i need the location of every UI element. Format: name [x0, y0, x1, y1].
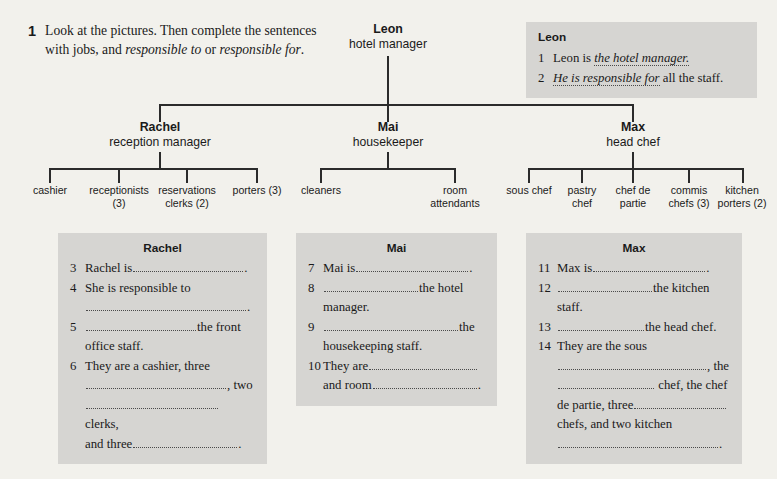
exercise-item-12-body: the kitchen staff.: [557, 279, 730, 318]
exercise-item-13-post: the head chef.: [645, 320, 716, 334]
exercise-item-14-post: .: [719, 437, 722, 451]
exercise-item-12: 12 the kitchen staff.: [538, 279, 730, 318]
exercise-item-9-blank[interactable]: [324, 319, 458, 331]
connector-mai-stem: [387, 152, 389, 169]
exercise-item-7-number: 7: [308, 259, 323, 279]
answer-item-2-number: 2: [538, 68, 553, 88]
exercise-item-14-l5: chefs, and two kitchen: [557, 417, 672, 431]
exercise-item-6-blank-3[interactable]: [133, 436, 237, 448]
org-node-rachel: Rachel reception manager: [109, 120, 211, 150]
exercise-item-3-blank[interactable]: [133, 260, 243, 272]
connector-root-vertical: [387, 56, 389, 104]
org-leaf-reservations-clerks: reservations clerks (2): [151, 184, 223, 209]
org-node-rachel-role: reception manager: [109, 135, 211, 150]
exercise-item-10-pre: They are: [323, 359, 368, 373]
org-leaf-sous-chef: sous chef: [506, 184, 552, 197]
exercise-item-10-blank-2[interactable]: [373, 377, 477, 389]
org-node-leon-name: Leon: [349, 22, 427, 37]
org-leaf-receptionists: receptionists (3): [83, 184, 155, 209]
exercise-item-11: 11 Max is.: [538, 259, 730, 279]
exercise-item-4: 4 She is responsible to.: [70, 279, 255, 318]
exercise-item-5: 5 the front office staff.: [70, 318, 255, 357]
org-leaf-kitchen-porters: kitchen porters (2): [711, 184, 773, 209]
answer-item-2-answer[interactable]: He is responsible for: [553, 71, 660, 86]
exercise-item-7: 7 Mai is.: [308, 259, 485, 279]
worksheet-page: 1 Look at the pictures. Then complete th…: [0, 0, 777, 479]
exercise-item-10: 10 They areand room.: [308, 357, 485, 396]
exercise-item-10-number: 10: [308, 357, 323, 377]
exercise-item-4-pre: She is responsible to: [85, 281, 191, 295]
exercise-item-6-body: They are a cashier, three, two clerks,an…: [85, 357, 255, 455]
exercise-item-4-blank[interactable]: [86, 299, 246, 311]
answer-item-2-post: all the staff.: [663, 71, 724, 85]
org-node-mai: Mai housekeeper: [353, 120, 423, 150]
org-leaf-room-attendants: room attendants: [419, 184, 491, 209]
connector-leaf-room-attendants: [454, 168, 456, 183]
exercise-item-14-blank-3[interactable]: [634, 397, 726, 409]
exercise-item-14-blank-2[interactable]: [558, 377, 654, 389]
exercise-item-7-blank[interactable]: [356, 260, 468, 272]
exercise-item-5-blank[interactable]: [86, 319, 196, 331]
exercise-item-11-blank[interactable]: [593, 260, 705, 272]
exercise-item-6-blank-1[interactable]: [86, 377, 226, 389]
exercise-box-mai-title: Mai: [308, 241, 485, 256]
exercise-item-14-blank-4[interactable]: [558, 436, 718, 448]
exercise-item-3-body: Rachel is.: [85, 259, 255, 279]
exercise-item-14-number: 14: [538, 337, 557, 357]
exercise-item-6-number: 6: [70, 357, 85, 377]
exercise-item-13-number: 13: [538, 318, 557, 338]
exercise-item-8: 8 the hotel manager.: [308, 279, 485, 318]
exercise-item-9: 9 the housekeeping staff.: [308, 318, 485, 357]
exercise-item-14-blank-1[interactable]: [558, 358, 706, 370]
org-leaf-commis-chefs: commis chefs (3): [663, 184, 715, 209]
exercise-item-5-number: 5: [70, 318, 85, 338]
exercise-item-6-mid2: clerks,: [85, 417, 119, 431]
exercise-item-3-number: 3: [70, 259, 85, 279]
exercise-item-6-pre: They are a cashier, three: [85, 359, 210, 373]
exercise-item-5-body: the front office staff.: [85, 318, 255, 357]
exercise-item-11-number: 11: [538, 259, 557, 279]
exercise-item-10-body: They areand room.: [323, 357, 485, 396]
exercise-box-max: Max 11 Max is. 12 the kitchen staff. 13 …: [526, 233, 742, 464]
connector-max-stem: [632, 152, 634, 169]
exercise-item-13-blank[interactable]: [558, 319, 644, 331]
exercise-item-10-mid: and room: [323, 378, 372, 392]
connector-leaf-kitchen-porters: [742, 168, 744, 183]
exercise-item-14-pre: They are the sous: [557, 339, 647, 353]
answer-item-1-pre: Leon is: [553, 51, 591, 65]
exercise-item-8-blank[interactable]: [324, 280, 418, 292]
org-leaf-cashier: cashier: [14, 184, 86, 197]
connector-leaf-chef-de-partie: [632, 168, 634, 183]
org-node-max: Max head chef: [606, 120, 660, 150]
exercise-item-6-blank-2[interactable]: [86, 397, 218, 409]
exercise-item-4-post: .: [247, 300, 250, 314]
exercise-item-8-body: the hotel manager.: [323, 279, 485, 318]
connector-leaf-commis-chefs: [688, 168, 690, 183]
exercise-box-max-title: Max: [538, 241, 730, 256]
org-node-max-role: head chef: [606, 135, 660, 150]
org-leaf-pastry-chef: pastry chef: [559, 184, 605, 209]
exercise-item-14-body: They are the sous, the chef, the chefde …: [557, 337, 730, 454]
org-node-mai-name: Mai: [353, 120, 423, 135]
org-leaf-cleaners: cleaners: [285, 184, 357, 197]
answer-item-1-answer[interactable]: the hotel manager.: [594, 51, 689, 66]
connector-rachel-stem: [159, 152, 161, 169]
connector-leaf-reservations: [186, 168, 188, 183]
exercise-item-10-post: .: [478, 378, 481, 392]
exercise-item-14-l3: chef, the chef: [658, 378, 727, 392]
org-node-leon: Leon hotel manager: [349, 22, 427, 52]
exercise-item-4-body: She is responsible to.: [85, 279, 255, 318]
exercise-item-12-blank[interactable]: [558, 280, 652, 292]
answer-item-2: 2 He is responsible for all the staff.: [538, 68, 745, 88]
exercise-item-6-post: .: [238, 437, 241, 451]
exercise-item-7-body: Mai is.: [323, 259, 485, 279]
answer-item-1-body: Leon is the hotel manager.: [553, 48, 745, 68]
answer-box-leon: Leon 1 Leon is the hotel manager. 2 He i…: [526, 22, 757, 98]
connector-leaf-porters: [256, 168, 258, 183]
connector-level1-bus: [159, 104, 633, 106]
exercise-item-10-blank-1[interactable]: [369, 358, 477, 370]
exercise-item-6: 6 They are a cashier, three, two clerks,…: [70, 357, 255, 455]
exercise-item-3: 3 Rachel is.: [70, 259, 255, 279]
exercise-item-3-post: .: [244, 261, 247, 275]
exercise-item-8-number: 8: [308, 279, 323, 299]
